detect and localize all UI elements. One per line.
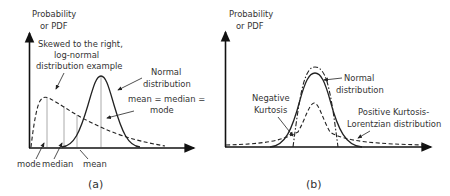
equality-label-2: mode [150,105,174,115]
mean-label: mean [83,159,107,169]
equality-label-1: mean = median = [128,94,205,104]
negative-kurtosis-label-2: Kurtosis [254,105,287,115]
panel-b-y-label-2: or PDF [236,21,264,31]
skewed-label-2: log-normal [54,50,99,60]
normal-label-2: distribution [143,79,191,89]
skewed-pointer [56,73,64,89]
mode-label: mode [17,159,41,169]
skewed-label-1: Skewed to the right, [38,39,123,49]
median-pointer [54,143,62,159]
negative-kurtosis-label-1: Negative [252,93,290,103]
panel-a-caption: (a) [88,178,103,191]
panel-b-caption: (b) [306,178,322,191]
panel-a-y-label-2: or PDF [40,21,68,31]
normal-label-1: Normal [151,67,181,77]
panel-a-y-label-1: Probability [32,9,76,19]
skewed-label-3: distribution example [36,61,122,71]
positive-kurtosis-pointer [358,131,370,138]
normal-pointer-a [118,78,142,90]
median-label: median [42,159,73,169]
normal-label-b-2: distribution [336,85,384,95]
panel-a: Probability or PDF Skewed to the right, … [17,9,205,191]
equality-pointer [107,111,134,118]
mean-pointer [80,150,88,159]
mode-pointer [36,143,44,159]
panel-b-y-label-1: Probability [229,9,273,19]
positive-kurtosis-label-2: Lorentzian distribution [347,119,441,129]
panel-b: Probability or PDF Normal distribution N… [225,9,441,191]
normal-pointer-b [324,78,342,80]
distribution-figure: Probability or PDF Skewed to the right, … [0,0,450,196]
lognormal-curve [31,97,165,147]
normal-label-b-1: Normal [344,73,374,83]
positive-kurtosis-label-1: Positive Kurtosis- [358,107,429,117]
